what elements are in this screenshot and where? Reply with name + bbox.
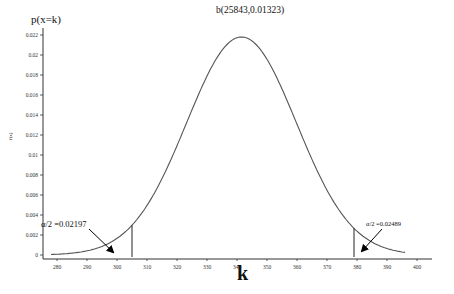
chart-canvas: 00.0020.0040.0060.0080.010.0120.0140.016… bbox=[0, 0, 454, 294]
annotation-right-tail: α/2 =0.02489 bbox=[366, 220, 401, 227]
y-tick-label: 0.008 bbox=[26, 172, 39, 178]
right-arrow-icon bbox=[362, 229, 382, 251]
y-tick-label: 0.002 bbox=[26, 232, 39, 238]
distribution-curve bbox=[51, 37, 405, 255]
x-tick-label: 330 bbox=[203, 264, 212, 270]
x-tick-label: 400 bbox=[413, 264, 422, 270]
x-tick-label: 350 bbox=[263, 264, 272, 270]
y-tick-label: 0.018 bbox=[26, 72, 39, 78]
y-tick-label: 0.004 bbox=[26, 212, 39, 218]
x-tick-label: 360 bbox=[293, 264, 302, 270]
x-tick-label: 300 bbox=[113, 264, 122, 270]
x-tick-label: 320 bbox=[173, 264, 182, 270]
y-tick-label: 0.022 bbox=[26, 32, 39, 38]
y-tick-label: 0.016 bbox=[26, 92, 39, 98]
x-tick-label: 370 bbox=[323, 264, 332, 270]
y-tick-label: 0.014 bbox=[26, 112, 39, 118]
chart-title: b(25843,0.01323) bbox=[216, 5, 284, 15]
y-tick-label: 0 bbox=[35, 252, 38, 258]
y-tick-label: 0.006 bbox=[26, 192, 39, 198]
annotation-left-tail: α/2 =0.02197 bbox=[41, 219, 87, 229]
y-tick-label: 0.01 bbox=[28, 152, 38, 158]
x-tick-label: 290 bbox=[83, 264, 92, 270]
x-axis-title: k bbox=[237, 262, 248, 285]
left-arrow-icon bbox=[89, 229, 113, 252]
x-tick-label: 310 bbox=[143, 264, 152, 270]
y-tick-label: 0.02 bbox=[28, 52, 38, 58]
x-tick-label: 380 bbox=[353, 264, 362, 270]
y-axis-side-label: f(x) bbox=[8, 133, 13, 141]
y-axis-title: p(x=k) bbox=[31, 13, 61, 25]
x-tick-label: 390 bbox=[383, 264, 392, 270]
y-tick-label: 0.012 bbox=[26, 132, 39, 138]
x-tick-label: 280 bbox=[53, 264, 62, 270]
